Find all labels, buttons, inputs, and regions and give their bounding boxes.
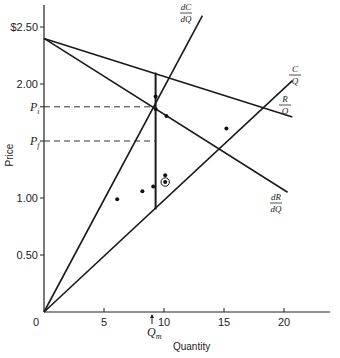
label-pf: Pf	[29, 134, 41, 150]
line-label-dc-dq: dCdQ	[180, 2, 192, 24]
line-label-c-q: CQ	[289, 64, 301, 86]
data-point	[154, 107, 158, 111]
y-axis-title: Price	[4, 143, 15, 166]
line-label-r-q: RQ	[279, 94, 291, 116]
svg-text:dC: dC	[181, 2, 193, 12]
data-point	[115, 197, 119, 201]
svg-text:Q: Q	[292, 76, 299, 86]
data-point	[140, 189, 144, 193]
svg-text:R: R	[281, 94, 288, 104]
data-point	[163, 173, 167, 177]
y-tick-label: 1.00	[17, 192, 38, 204]
svg-text:dQ: dQ	[271, 204, 283, 214]
series-lines	[44, 16, 292, 312]
x-tick-label: 10	[158, 316, 170, 328]
arrow-up-icon	[150, 314, 154, 318]
x-tick-label: 15	[218, 316, 230, 328]
chart: 051015200.501.002.00$2.50QuantityPrice P…	[0, 0, 340, 358]
y-tick-label: $2.50	[10, 21, 38, 33]
data-point	[164, 114, 168, 118]
data-point	[154, 95, 158, 99]
y-tick-label: 2.00	[17, 78, 38, 90]
data-point	[151, 185, 155, 189]
x-tick-label: 20	[278, 316, 290, 328]
data-point	[163, 180, 167, 184]
x-tick-label: 5	[101, 316, 107, 328]
y-tick-label: 0.50	[17, 249, 38, 261]
svg-text:C: C	[292, 64, 299, 74]
line-dc-dq	[44, 16, 202, 312]
x-axis-title: Quantity	[173, 341, 210, 352]
line-label-dr-dq: dRdQ	[270, 192, 282, 214]
labels: PiPfQmRQdRdQdCdQCQ	[29, 2, 301, 341]
x-tick-label: 0	[33, 316, 39, 328]
label-pi: Pi	[29, 100, 40, 116]
svg-text:dR: dR	[271, 192, 282, 202]
svg-text:dQ: dQ	[181, 14, 193, 24]
line-r-q	[44, 38, 292, 117]
data-point	[224, 126, 228, 130]
svg-text:Q: Q	[282, 106, 289, 116]
